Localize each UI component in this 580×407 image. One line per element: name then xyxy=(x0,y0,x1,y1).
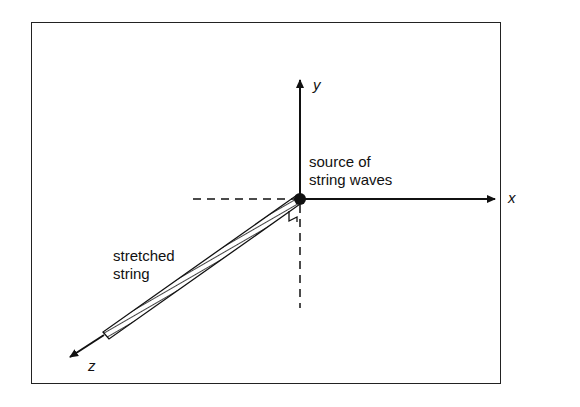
wave-source-dot xyxy=(294,193,306,205)
source-label-line2: string waves xyxy=(309,171,392,189)
x-axis-label: x xyxy=(508,189,516,206)
string-label-line1: stretched xyxy=(113,247,175,265)
source-label: source of string waves xyxy=(309,153,392,189)
string-label: stretched string xyxy=(113,247,175,283)
right-angle-marker xyxy=(289,211,297,222)
axes-diagram xyxy=(0,0,580,407)
z-axis-label: z xyxy=(88,357,96,374)
string-label-line2: string xyxy=(113,265,175,283)
z-axis-arrow xyxy=(70,335,104,357)
y-axis-label: y xyxy=(313,76,321,93)
source-label-line1: source of xyxy=(309,153,392,171)
